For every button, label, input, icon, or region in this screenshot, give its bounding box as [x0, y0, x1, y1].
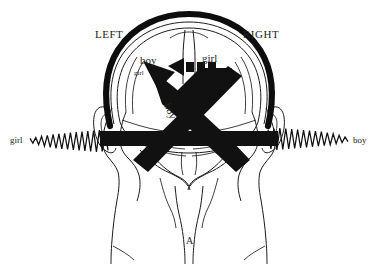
ear-input-label-left: girl	[10, 135, 23, 145]
transfer-arrow-dash-1	[186, 62, 194, 72]
figure-root: LEFT RIGHT boy girl girl boy girl boy A	[0, 0, 377, 264]
hemisphere-label-left: LEFT	[95, 28, 123, 40]
dichotic-listening-diagram: LEFT RIGHT boy girl girl boy girl boy A	[0, 0, 377, 264]
brain-label-left-boy: boy	[140, 54, 157, 66]
hemisphere-label-right: RIGHT	[243, 28, 279, 40]
panel-label: A	[186, 235, 194, 246]
ear-input-label-right: boy	[353, 135, 367, 145]
brain-label-left-girl: girl	[134, 69, 144, 77]
brain-label-right-girl: girl	[202, 52, 217, 64]
